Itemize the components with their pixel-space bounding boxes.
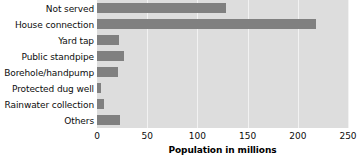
bar-chart: Not servedHouse connectionYard tapPublic… <box>0 0 364 166</box>
bar <box>97 115 120 125</box>
x-axis-title: Population in millions <box>97 145 348 155</box>
category-axis: Not servedHouse connectionYard tapPublic… <box>0 0 94 128</box>
bar <box>97 19 316 29</box>
x-tick-label: 100 <box>177 131 217 142</box>
category-label: Yard tap <box>0 36 94 46</box>
category-label: House connection <box>0 20 94 30</box>
bar <box>97 67 118 77</box>
bar <box>97 51 124 61</box>
bar <box>97 99 104 109</box>
x-tick-label: 200 <box>278 131 318 142</box>
x-tick-label: 50 <box>127 131 167 142</box>
category-label: Borehole/handpump <box>0 68 94 78</box>
x-tick-label: 150 <box>228 131 268 142</box>
category-label: Others <box>0 116 94 126</box>
category-label: Public standpipe <box>0 52 94 62</box>
x-tick-label: 0 <box>77 131 117 142</box>
category-label: Not served <box>0 4 94 14</box>
plot-area <box>97 0 348 128</box>
category-label: Rainwater collection <box>0 100 94 110</box>
x-tick-label: 250 <box>328 131 364 142</box>
bar <box>97 35 119 45</box>
bar <box>97 83 101 93</box>
gridline <box>348 0 349 128</box>
x-axis: Population in millions 050100150200250 <box>0 128 364 166</box>
bar <box>97 3 226 13</box>
category-label: Protected dug well <box>0 84 94 94</box>
